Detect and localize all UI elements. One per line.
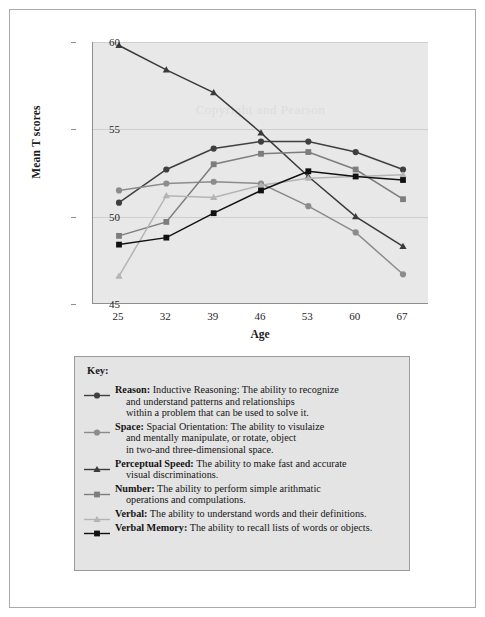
x-tick-label: 67 [397, 310, 408, 322]
data-point-marker [400, 177, 406, 183]
x-tick-label: 53 [302, 310, 313, 322]
page-canvas: Mean T scores Copyright and Pearson 4550… [0, 0, 485, 617]
y-tick-mark [71, 129, 76, 130]
data-point-marker [163, 180, 169, 186]
x-tick-label: 46 [255, 310, 266, 322]
y-tick-mark [71, 42, 76, 43]
series-reason [116, 138, 406, 205]
legend-marker-icon [83, 460, 111, 469]
y-tick-mark [71, 304, 76, 305]
data-point-marker [305, 149, 311, 155]
legend-entry-desc-line: and mentally manipulate, or rotate, obje… [115, 432, 403, 444]
legend-marker-icon [83, 423, 111, 432]
data-point-marker [400, 196, 406, 202]
legend-entry-label: Space: [115, 421, 144, 432]
data-point-marker [353, 149, 359, 155]
series-number [116, 149, 406, 239]
data-point-marker [211, 210, 217, 216]
x-tick-label: 60 [349, 310, 360, 322]
data-point-marker [353, 229, 359, 235]
data-point-marker [115, 272, 122, 278]
data-point-marker [400, 271, 406, 277]
series-verbal [115, 171, 406, 279]
legend-entry-desc-line: visual discriminations. [115, 469, 403, 481]
data-point-marker [399, 243, 406, 249]
legend-entry-label: Verbal Memory: [115, 522, 187, 533]
legend-entry-desc-line: in two-and three-dimensional space. [115, 444, 403, 456]
series-line [119, 182, 403, 275]
legend-entry-perceptual-speed[interactable]: Perceptual Speed: The ability to make fa… [81, 458, 403, 481]
data-point-marker [211, 161, 217, 167]
legend-entry-reason[interactable]: Reason: Inductive Reasoning: The ability… [81, 384, 403, 419]
legend-entry-label: Number: [115, 483, 155, 494]
data-point-marker [211, 179, 217, 185]
data-point-marker [305, 168, 311, 174]
data-point-marker [94, 530, 100, 536]
y-tick-label: 50 [76, 211, 120, 223]
legend-entry-space[interactable]: Space: Spacial Orientation: The ability … [81, 421, 403, 456]
y-axis-title-text: Mean T scores [30, 80, 42, 204]
legend-marker-icon [83, 510, 111, 519]
y-axis-title: Mean T scores [26, 26, 46, 288]
legend-title: Key: [87, 365, 109, 376]
data-point-marker [258, 188, 264, 194]
data-point-marker [305, 138, 311, 144]
data-point-marker [94, 429, 100, 435]
legend-entry-list: Reason: Inductive Reasoning: The ability… [81, 384, 403, 535]
y-tick-mark [71, 217, 76, 218]
legend-entry-text: Perceptual Speed: The ability to make fa… [115, 458, 403, 481]
line-chart: Mean T scores Copyright and Pearson 4550… [26, 26, 458, 336]
data-point-marker [116, 187, 122, 193]
series-layer [93, 42, 428, 303]
legend-key-box: Key: Reason: Inductive Reasoning: The ab… [74, 356, 410, 571]
data-point-marker [258, 151, 264, 157]
legend-entry-text: Verbal Memory: The ability to recall lis… [115, 522, 403, 534]
legend-marker-icon [83, 485, 111, 494]
plot-area: Copyright and Pearson [92, 42, 428, 304]
legend-marker-icon [83, 386, 111, 395]
series-line [119, 45, 403, 246]
data-point-marker [116, 233, 122, 239]
legend-entry-text: Space: Spacial Orientation: The ability … [115, 421, 403, 456]
legend-entry-desc-line: operations and compulations. [115, 494, 403, 506]
data-point-marker [94, 491, 100, 497]
legend-entry-text: Number: The ability to perform simple ar… [115, 483, 403, 506]
data-point-marker [163, 219, 169, 225]
plot-inner: Copyright and Pearson [93, 42, 428, 303]
legend-entry-label: Reason: [115, 384, 150, 395]
legend-entry-verbal-memory[interactable]: Verbal Memory: The ability to recall lis… [81, 522, 403, 534]
data-point-marker [211, 145, 217, 151]
legend-entry-text: Reason: Inductive Reasoning: The ability… [115, 384, 403, 419]
data-point-marker [116, 200, 122, 206]
y-tick-label: 55 [76, 123, 120, 135]
y-tick-label: 45 [76, 298, 120, 310]
series-line [119, 152, 403, 236]
legend-marker-icon [83, 524, 111, 533]
legend-entry-verbal[interactable]: Verbal: The ability to understand words … [81, 508, 403, 520]
data-point-marker [116, 242, 122, 248]
series-perceptual-speed [115, 42, 406, 249]
x-tick-label: 32 [160, 310, 171, 322]
x-tick-label: 25 [113, 310, 124, 322]
legend-entry-label: Verbal: [115, 508, 147, 519]
data-point-marker [353, 174, 359, 180]
data-point-marker [353, 167, 359, 173]
data-point-marker [258, 138, 264, 144]
legend-entry-number[interactable]: Number: The ability to perform simple ar… [81, 483, 403, 506]
data-point-marker [94, 392, 100, 398]
x-tick-label: 39 [207, 310, 218, 322]
data-point-marker [305, 203, 311, 209]
legend-entry-desc-line: and understand patterns and relationship… [115, 396, 403, 408]
legend-entry-text: Verbal: The ability to understand words … [115, 508, 403, 520]
x-axis-title: Age [92, 328, 428, 340]
series-space [116, 179, 406, 278]
legend-entry-desc-line: within a problem that can be used to sol… [115, 407, 403, 419]
legend-entry-label: Perceptual Speed: [115, 458, 194, 469]
y-tick-label: 60 [76, 36, 120, 48]
data-point-marker [163, 166, 169, 172]
data-point-marker [163, 235, 169, 241]
